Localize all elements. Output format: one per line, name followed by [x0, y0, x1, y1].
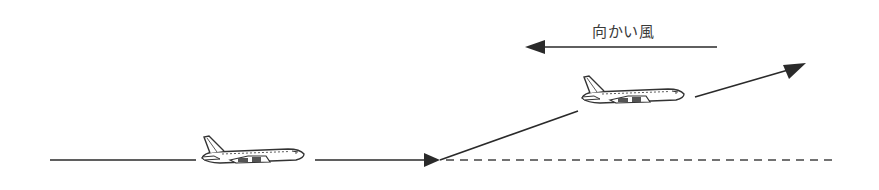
plane-on-ground-icon [202, 136, 304, 163]
headwind-arrowhead-icon [525, 40, 545, 54]
climb-path-line-1 [440, 111, 578, 160]
climb-path-line-2 [695, 68, 795, 97]
takeoff-diagram [0, 0, 879, 190]
plane-climbing-icon [582, 76, 684, 103]
liftoff-arrowhead-icon [424, 153, 440, 167]
headwind-label: 向かい風 [592, 20, 654, 41]
climb-arrowhead-icon [783, 63, 806, 79]
